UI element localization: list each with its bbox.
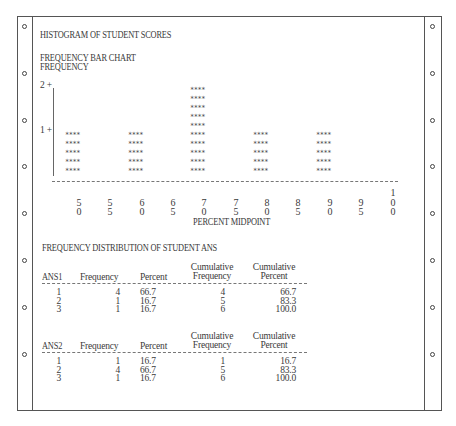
x-tick-digit: 0	[325, 207, 335, 217]
bar-segment: ****	[190, 159, 205, 165]
bar-segment: ****	[65, 141, 80, 147]
col-header-cumfreq: Frequency	[182, 340, 242, 350]
x-tick-label: 55	[105, 188, 115, 217]
tractor-hole-icon	[22, 118, 27, 123]
cell-cumfreq: 6	[205, 373, 225, 383]
tractor-hole-icon	[22, 258, 27, 263]
freq-table-title: FREQUENCY DISTRIBUTION OF STUDENT ANS	[42, 243, 217, 253]
bar-segment: ****	[65, 150, 80, 156]
x-tick-digit: 5	[293, 207, 303, 217]
table-separator	[42, 352, 307, 353]
bar-segment: ****	[253, 168, 268, 174]
x-tick-digit: 0	[74, 207, 84, 217]
bar-segment: ****	[190, 105, 205, 111]
y-tick-2: 2 +	[40, 80, 52, 90]
bar-segment: ****	[128, 141, 143, 147]
tractor-hole-icon	[22, 24, 27, 29]
report-title: HISTOGRAM OF STUDENT SCORES	[40, 30, 171, 40]
table-variable-name: ANS1	[42, 272, 62, 282]
bar-segment: ****	[65, 168, 80, 174]
x-tick-digit: 0	[388, 207, 398, 217]
cell-frequency: 1	[100, 304, 120, 314]
bar-segment: ****	[128, 168, 143, 174]
table-separator	[42, 283, 307, 284]
x-tick-label: 70	[199, 188, 209, 217]
bar-segment: ****	[316, 150, 331, 156]
x-tick-digit: 5	[231, 207, 241, 217]
x-tick-label: 50	[74, 188, 84, 217]
x-tick-label: 100	[388, 188, 398, 217]
cell-percent: 16.7	[140, 373, 156, 383]
cell-frequency: 1	[100, 373, 120, 383]
bar-segment: ****	[190, 150, 205, 156]
x-tick-label: 80	[262, 188, 272, 217]
tractor-hole-icon	[430, 71, 435, 76]
x-tick-digit: 5	[356, 207, 366, 217]
bar-segment: ****	[253, 159, 268, 165]
y-axis-label: FREQUENCY	[40, 62, 89, 72]
tractor-hole-icon	[22, 71, 27, 76]
cell-cumpct: 100.0	[260, 304, 296, 314]
x-tick-digit: 0	[137, 207, 147, 217]
bar-segment: ****	[190, 123, 205, 129]
x-tick-label: 65	[168, 188, 178, 217]
bar-segment: ****	[128, 132, 143, 138]
cell-value: 3	[45, 304, 61, 314]
cell-percent: 16.7	[140, 304, 156, 314]
x-tick-label: 75	[231, 188, 241, 217]
bar-segment: ****	[253, 150, 268, 156]
x-tick-label: 90	[325, 188, 335, 217]
bar-segment: ****	[128, 159, 143, 165]
tractor-hole-icon	[22, 211, 27, 216]
y-axis-line	[53, 88, 54, 176]
y-tick-1: 1 +	[40, 125, 52, 135]
tractor-hole-icon	[430, 164, 435, 169]
x-tick-digit: 0	[199, 207, 209, 217]
bar-segment: ****	[190, 132, 205, 138]
x-tick-digit: 0	[262, 207, 272, 217]
x-tick-digit: 5	[168, 207, 178, 217]
cell-cumpct: 100.0	[260, 373, 296, 383]
cell-cumfreq: 6	[205, 304, 225, 314]
tractor-hole-icon	[430, 305, 435, 310]
x-axis-line	[52, 181, 398, 182]
col-header-cumpct: Percent	[244, 340, 304, 350]
table-variable-name: ANS2	[42, 341, 62, 351]
col-header-frequency: Frequency	[80, 272, 118, 282]
x-tick-label: 95	[356, 188, 366, 217]
x-tick-label: 60	[137, 188, 147, 217]
bar-segment: ****	[65, 159, 80, 165]
col-header-frequency: Frequency	[80, 341, 118, 351]
bar-segment: ****	[316, 132, 331, 138]
tractor-hole-icon	[22, 164, 27, 169]
x-axis-label: PERCENT MIDPOINT	[193, 217, 270, 227]
col-header-cumfreq: Frequency	[182, 271, 242, 281]
col-header-percent: Percent	[140, 341, 167, 351]
left-margin-line	[32, 16, 33, 411]
tractor-hole-icon	[22, 305, 27, 310]
bar-segment: ****	[190, 141, 205, 147]
cell-value: 3	[45, 373, 61, 383]
bar-segment: ****	[190, 168, 205, 174]
bar-segment: ****	[65, 132, 80, 138]
tractor-hole-icon	[22, 352, 27, 357]
right-margin-line	[424, 16, 425, 411]
bar-segment: ****	[190, 87, 205, 93]
bar-segment: ****	[316, 159, 331, 165]
x-tick-digit: 5	[105, 207, 115, 217]
bar-segment: ****	[316, 141, 331, 147]
col-header-percent: Percent	[140, 272, 167, 282]
tractor-hole-icon	[430, 211, 435, 216]
col-header-cumpct: Percent	[244, 271, 304, 281]
tractor-hole-icon	[430, 118, 435, 123]
bar-segment: ****	[253, 132, 268, 138]
bar-segment: ****	[316, 168, 331, 174]
tractor-hole-icon	[430, 24, 435, 29]
bar-segment: ****	[128, 150, 143, 156]
tractor-hole-icon	[430, 258, 435, 263]
tractor-hole-icon	[430, 352, 435, 357]
bar-segment: ****	[253, 141, 268, 147]
bar-segment: ****	[190, 114, 205, 120]
x-tick-label: 85	[293, 188, 303, 217]
bar-segment: ****	[190, 96, 205, 102]
